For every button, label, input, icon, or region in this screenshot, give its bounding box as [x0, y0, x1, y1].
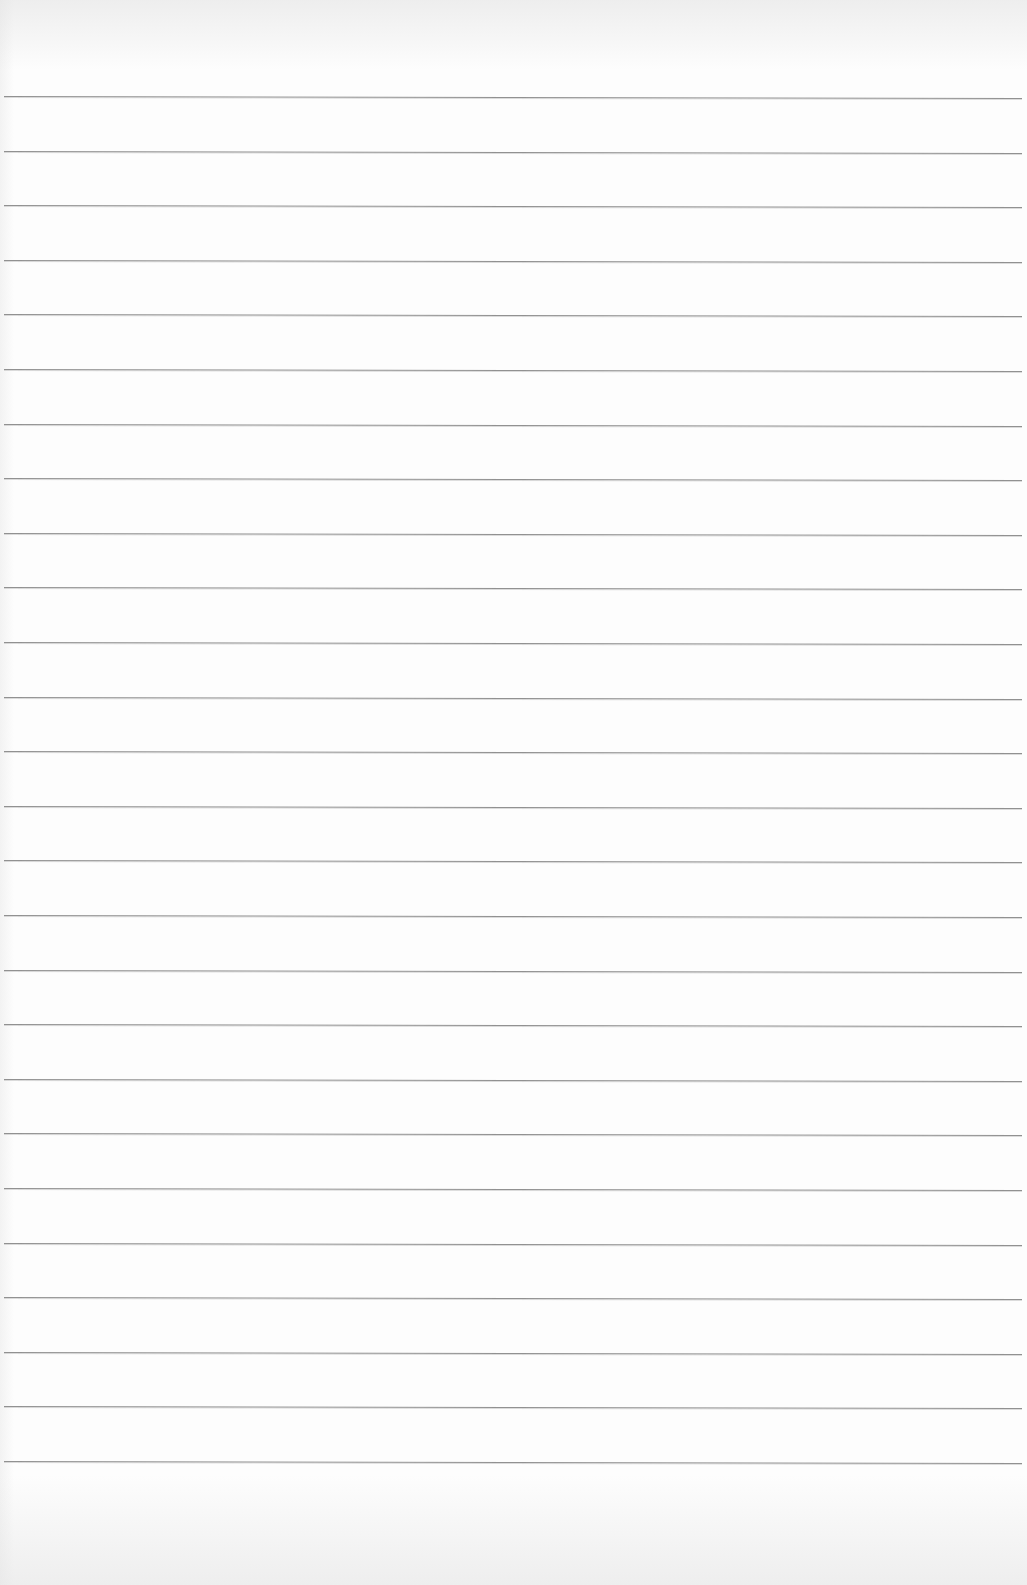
ruled-line — [4, 915, 1022, 918]
ruled-line — [4, 151, 1022, 154]
lined-paper-sheet — [0, 0, 1027, 1585]
ruled-line — [4, 205, 1022, 208]
ruled-line — [4, 260, 1022, 263]
ruled-line — [4, 1352, 1022, 1355]
ruled-line — [4, 642, 1022, 645]
ruled-line — [4, 1079, 1022, 1082]
ruled-line — [4, 96, 1022, 99]
ruled-line — [4, 1243, 1022, 1246]
ruled-line — [4, 1406, 1022, 1409]
ruled-line — [4, 697, 1022, 700]
ruled-line — [4, 1297, 1022, 1300]
ruled-line — [4, 970, 1022, 973]
ruled-line — [4, 314, 1022, 317]
ruled-line — [4, 369, 1022, 372]
ruled-line — [4, 751, 1022, 754]
ruled-line — [4, 1133, 1022, 1136]
ruled-line — [4, 1024, 1022, 1027]
ruled-line — [4, 1461, 1022, 1464]
ruled-line — [4, 860, 1022, 863]
ruled-line — [4, 478, 1022, 481]
ruled-line — [4, 424, 1022, 427]
ruled-line — [4, 587, 1022, 590]
ruled-line — [4, 1188, 1022, 1191]
ruled-line — [4, 533, 1022, 536]
ruled-line — [4, 806, 1022, 809]
